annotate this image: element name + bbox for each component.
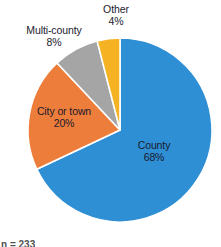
- slice-label-city-or-town-value: 20%: [22, 117, 106, 129]
- slice-label-other: Other 4%: [86, 3, 146, 28]
- slice-label-multi-county-name: Multi-county: [12, 24, 96, 36]
- slice-label-other-name: Other: [86, 3, 146, 15]
- pie-slices: [28, 38, 212, 222]
- slice-label-county: County 68%: [118, 139, 190, 164]
- slice-label-multi-county-value: 8%: [12, 36, 96, 48]
- slice-label-county-name: County: [118, 139, 190, 151]
- slice-label-city-or-town-name: City or town: [22, 105, 106, 117]
- slice-label-city-or-town: City or town 20%: [22, 105, 106, 130]
- slice-label-county-value: 68%: [118, 151, 190, 163]
- slice-label-other-value: 4%: [86, 15, 146, 27]
- caption-fragment: n = 233: [1, 239, 35, 247]
- slice-label-multi-county: Multi-county 8%: [12, 24, 96, 49]
